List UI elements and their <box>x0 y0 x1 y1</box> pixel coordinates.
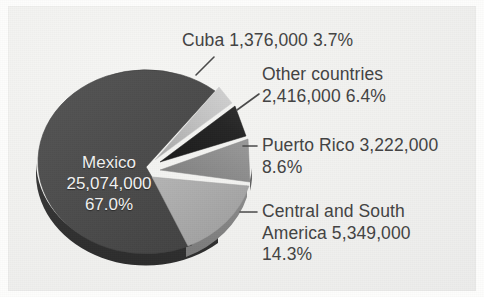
mexico-label-value: 25,074,000 <box>38 173 180 194</box>
mexico-label-name: Mexico <box>38 152 180 173</box>
puerto-rico-callout-label: Puerto Rico 3,222,000 8.6% <box>262 135 438 178</box>
cuba-callout-line-1: Cuba 1,376,000 3.7% <box>182 30 353 52</box>
mexico-label-percent: 67.0% <box>38 194 180 215</box>
central-south-america-callout-line-3: 14.3% <box>262 244 411 266</box>
other-countries-callout-line-2: 2,416,000 6.4% <box>262 86 386 108</box>
puerto-rico-callout-line-2: 8.6% <box>262 157 438 179</box>
cuba-leader-line <box>196 57 214 75</box>
other-countries-callout-label: Other countries 2,416,000 6.4% <box>262 64 386 107</box>
central-south-america-callout-line-1: Central and South <box>262 201 411 223</box>
pie-chart-figure: Mexico 25,074,000 67.0% Cuba 1,376,000 3… <box>0 0 484 297</box>
central-south-america-callout-label: Central and South America 5,349,000 14.3… <box>262 201 411 266</box>
central-south-america-callout-line-2: America 5,349,000 <box>262 223 411 245</box>
cuba-callout-label: Cuba 1,376,000 3.7% <box>182 30 353 52</box>
puerto-rico-slice-side <box>250 168 252 191</box>
puerto-rico-callout-line-1: Puerto Rico 3,222,000 <box>262 135 438 157</box>
other-countries-leader-line <box>237 94 259 110</box>
other-countries-callout-line-1: Other countries <box>262 64 386 86</box>
mexico-inner-label: Mexico 25,074,000 67.0% <box>38 152 180 215</box>
